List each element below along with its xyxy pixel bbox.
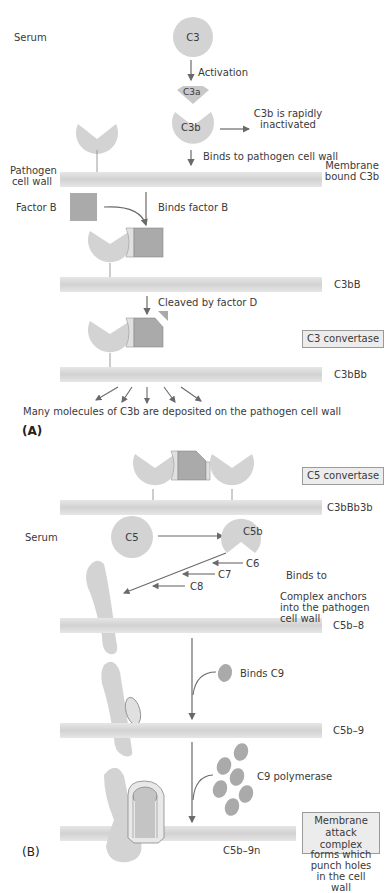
- pathogen-membrane-6: [60, 723, 322, 738]
- c5b-8-complex: [86, 561, 117, 654]
- panel-b-label: (B): [22, 845, 40, 859]
- panel-a-label: (A): [22, 424, 42, 438]
- c5-label: C5: [122, 532, 142, 543]
- c3b-label: C3b: [181, 122, 201, 133]
- c5b-9-label: C5b–9: [333, 725, 364, 736]
- activation-label: Activation: [198, 67, 248, 78]
- binds-c9-label: Binds C9: [240, 668, 284, 679]
- c9-polymerase-label: C9 polymerase: [257, 771, 332, 782]
- c3bbb-label: C3bBb: [334, 369, 367, 380]
- serum-label: Serum: [14, 32, 47, 43]
- binds-factor-b-label: Binds factor B: [158, 202, 228, 213]
- forms-holes-label: forms which punch holes in the cell wall: [306, 849, 376, 893]
- serum-label-b: Serum: [25, 532, 58, 543]
- c3a-label: C3a: [183, 87, 201, 98]
- c6-label: C6: [246, 558, 259, 569]
- binds-to-label: Binds to: [286, 570, 327, 581]
- c9-molecule: [216, 662, 234, 683]
- c7-label: C7: [218, 569, 231, 580]
- pathogen-cell-wall-label: Pathogen cell wall: [10, 165, 54, 187]
- pathogen-membrane-3: [60, 367, 322, 382]
- c3bb-label: C3bB: [334, 279, 361, 290]
- membrane-bound-c3b-label: Membrane bound C3b: [324, 160, 380, 182]
- c8-label: C8: [190, 581, 203, 592]
- cleaved-by-factor-d-label: Cleaved by factor D: [158, 297, 257, 308]
- pathogen-membrane-4: [60, 500, 322, 515]
- many-molecules-label: Many molecules of C3b are deposited on t…: [23, 406, 341, 417]
- c5b-9n-label: C5b–9n: [223, 845, 260, 856]
- c5-convertase-label: C5 convertase: [302, 467, 384, 485]
- c3bbb3b-label: C3bBb3b: [327, 502, 373, 513]
- c5b-label: C5b: [243, 526, 263, 537]
- pathogen-membrane-1: [60, 172, 322, 187]
- c3b-inactivated-label: C3b is rapidly inactivated: [252, 108, 324, 130]
- c5b-8-label: C5b–8: [333, 620, 364, 631]
- c3-convertase-label: C3 convertase: [302, 330, 384, 348]
- membrane-attack-complex-label: Membrane attack complex: [302, 812, 380, 854]
- factor-b-label: Factor B: [16, 202, 57, 213]
- pathogen-membrane-7: [60, 826, 296, 841]
- factor-b-molecule: [70, 193, 97, 221]
- c3-label: C3: [183, 32, 203, 43]
- pathogen-membrane-2: [60, 277, 322, 292]
- binds-cell-wall-label: Binds to pathogen cell wall: [203, 151, 338, 162]
